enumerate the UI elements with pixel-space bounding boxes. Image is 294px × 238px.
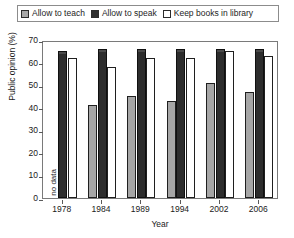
x-axis: 197819841989199420022006 <box>42 200 278 214</box>
legend-item-keep-books-in-library: Keep books in library <box>163 9 253 18</box>
x-axis-tick-label: 1989 <box>120 204 160 214</box>
y-axis-tick-label: 50 <box>29 81 38 90</box>
chart-legend: Allow to teach Allow to speak Keep books… <box>17 5 279 22</box>
bar-1994-speak <box>176 49 185 198</box>
y-axis-tick <box>39 177 43 178</box>
bar-group-2006 <box>245 42 273 198</box>
bar-group-1978: no data <box>49 42 77 198</box>
legend-swatch-icon <box>91 10 99 18</box>
no-data-annotation: no data <box>49 169 58 196</box>
bar-2002-speak <box>216 49 225 198</box>
bar-1994-teach <box>167 101 176 198</box>
y-axis-tick-label: 30 <box>29 126 38 135</box>
y-axis-tick <box>39 109 43 110</box>
y-axis-tick-label: 40 <box>29 104 38 113</box>
bar-2002-teach <box>206 83 215 198</box>
legend-swatch-icon <box>163 10 171 18</box>
y-axis-tick <box>39 87 43 88</box>
x-axis-tick-label: 1994 <box>160 204 200 214</box>
y-axis-tick-label: 10 <box>29 171 38 180</box>
y-axis-tick-label: 0 <box>33 194 38 203</box>
bar-1984-books <box>107 67 116 198</box>
y-axis-tick-label: 20 <box>29 149 38 158</box>
bar-group-1984 <box>88 42 116 198</box>
bar-1978-books <box>68 58 77 198</box>
legend-label: Allow to teach <box>32 9 85 18</box>
bar-1984-teach <box>88 105 97 198</box>
bar-group-1989 <box>127 42 155 198</box>
bar-2002-books <box>225 51 234 198</box>
bar-2006-speak <box>255 49 264 198</box>
legend-item-allow-to-speak: Allow to speak <box>91 9 157 18</box>
bar-1989-books <box>146 58 155 198</box>
bar-1994-books <box>186 58 195 198</box>
y-axis-tick <box>39 132 43 133</box>
y-axis-tick-label: 60 <box>29 59 38 68</box>
legend-swatch-icon <box>21 10 29 18</box>
bar-1978-speak <box>58 51 67 198</box>
x-axis-title: Year <box>42 219 278 229</box>
bar-2006-books <box>264 56 273 198</box>
bar-2006-teach <box>245 92 254 198</box>
legend-label: Allow to speak <box>102 9 157 18</box>
bar-chart: Allow to teach Allow to speak Keep books… <box>0 0 294 238</box>
x-axis-tick-label: 1978 <box>42 204 82 214</box>
y-axis-tick <box>39 64 43 65</box>
y-axis-tick-label: 70 <box>29 36 38 45</box>
x-axis-tick-label: 2006 <box>238 204 278 214</box>
legend-label: Keep books in library <box>174 9 253 18</box>
bar-group-1994 <box>167 42 195 198</box>
bar-1989-teach <box>127 96 136 198</box>
legend-item-allow-to-teach: Allow to teach <box>21 9 85 18</box>
bar-1989-speak <box>137 49 146 198</box>
bar-group-2002 <box>206 42 234 198</box>
y-axis-tick-labels: 010203040506070 <box>16 41 38 199</box>
x-axis-tick-label: 2002 <box>199 204 239 214</box>
plot-area: no data <box>42 41 278 199</box>
y-axis-tick <box>39 154 43 155</box>
y-axis-tick <box>39 42 43 43</box>
bar-1984-speak <box>98 49 107 198</box>
x-axis-tick-label: 1984 <box>81 204 121 214</box>
